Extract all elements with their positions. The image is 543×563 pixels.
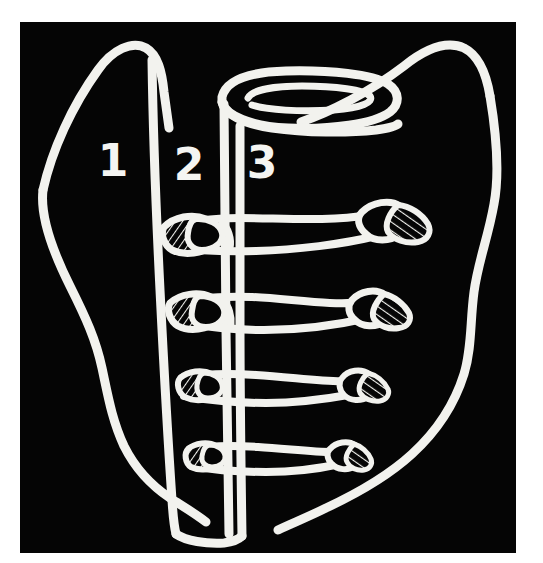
zone-label-1: 1 (98, 135, 129, 186)
zone-label-3: 3 (247, 137, 278, 188)
anatomical-diagram: 1 2 3 (0, 0, 543, 563)
rib-1-head (162, 216, 222, 253)
rib-2-head (168, 294, 224, 330)
rib-3-head (178, 371, 222, 400)
zone-label-2: 2 (174, 139, 205, 190)
rib-4-head (186, 443, 226, 469)
figure-root: 1 2 3 (0, 0, 543, 563)
